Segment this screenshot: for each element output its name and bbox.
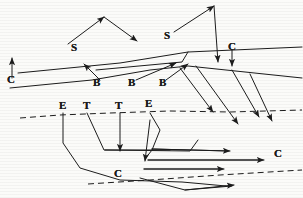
label-c-3: C	[114, 168, 122, 179]
label-b-2: B	[128, 77, 135, 88]
e2-descender	[145, 113, 160, 159]
dashed-horizon-upper	[20, 110, 302, 118]
arrow-band-d	[185, 185, 234, 190]
arrow-s1-left	[68, 17, 104, 44]
arrow-diag-4	[250, 74, 272, 121]
arrow-diag-2	[196, 66, 238, 124]
arrow-s1-right	[104, 17, 137, 41]
label-c-2: C	[228, 41, 236, 52]
arrow-b3-up	[166, 64, 188, 80]
arrow-s2-left	[174, 6, 214, 32]
label-b-3: B	[159, 77, 166, 88]
dashed-line-group	[20, 110, 302, 184]
figure-canvas: SSCCBBBETTECC	[0, 0, 303, 198]
arrow-diag-1	[180, 68, 213, 112]
label-s-1: S	[71, 42, 77, 53]
label-e-1: E	[59, 100, 66, 111]
label-t-1: T	[83, 100, 90, 111]
label-c-1: C	[7, 74, 15, 85]
arrow-group	[12, 6, 272, 190]
arrow-e2-down	[145, 120, 150, 161]
label-b-1: B	[93, 77, 100, 88]
label-c-4: C	[274, 148, 282, 159]
arrow-s2-down	[214, 6, 218, 62]
arrow-diag-3	[232, 70, 259, 117]
label-t-2: T	[115, 100, 122, 111]
label-s-2: S	[164, 30, 170, 41]
label-e-2: E	[145, 98, 152, 109]
t1-descender	[87, 113, 170, 150]
